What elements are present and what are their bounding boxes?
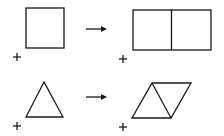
plus-icon xyxy=(119,55,127,63)
right-arrow-icon xyxy=(86,26,107,32)
triangle-shape xyxy=(26,82,63,117)
diagram-canvas xyxy=(0,0,224,136)
parallelogram-shape xyxy=(132,83,191,118)
plus-icon xyxy=(13,122,21,130)
right-arrow-icon xyxy=(86,94,107,100)
square-shape xyxy=(26,8,64,48)
plus-icon xyxy=(119,123,127,131)
two-squares-shape xyxy=(133,10,211,50)
plus-icon xyxy=(13,53,21,61)
